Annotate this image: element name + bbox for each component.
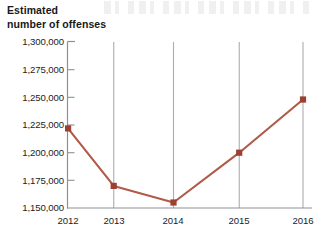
y-axis-label-1275000: 1,275,000 bbox=[2, 64, 64, 75]
y-axis-label-1225000: 1,225,000 bbox=[2, 119, 64, 130]
data-point-2015 bbox=[236, 150, 242, 156]
y-axis-label-1300000: 1,300,000 bbox=[2, 36, 64, 47]
y-axis-label-1250000: 1,250,000 bbox=[2, 92, 64, 103]
y-axis-label-1150000: 1,150,000 bbox=[2, 202, 64, 213]
x-axis-label-2016: 2016 bbox=[281, 215, 316, 226]
y-axis-label-1200000: 1,200,000 bbox=[2, 147, 64, 158]
x-axis-label-2014: 2014 bbox=[151, 215, 195, 226]
x-axis-label-2012: 2012 bbox=[46, 215, 90, 226]
data-point-2012 bbox=[65, 125, 71, 131]
data-line-offenses bbox=[68, 100, 303, 203]
y-tick-marks bbox=[68, 70, 75, 181]
x-axis-label-2015: 2015 bbox=[217, 215, 261, 226]
data-point-2013 bbox=[111, 183, 117, 189]
gridlines-vertical bbox=[114, 42, 303, 208]
x-axis-label-2013: 2013 bbox=[92, 215, 136, 226]
y-axis-label-1175000: 1,175,000 bbox=[2, 175, 64, 186]
data-point-2016 bbox=[300, 96, 306, 102]
axis-spines bbox=[67, 42, 312, 209]
data-point-2014 bbox=[170, 199, 176, 205]
line-chart-figure: Estimated number of offenses bbox=[0, 0, 316, 243]
data-markers bbox=[65, 96, 306, 205]
